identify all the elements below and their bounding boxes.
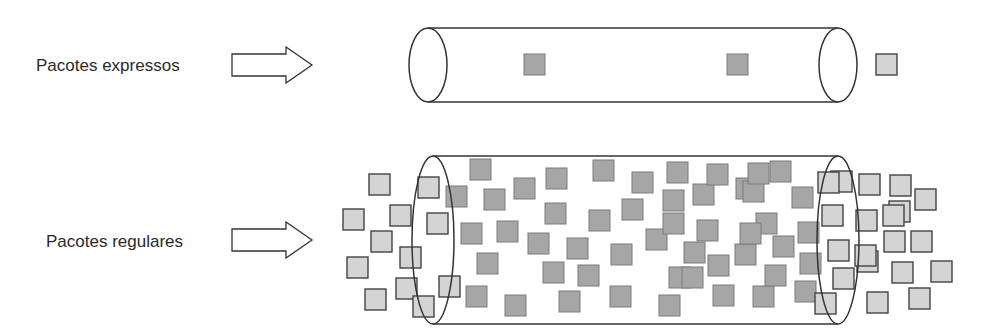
packet-outside [418,177,439,198]
packet-in-transit [470,159,491,180]
packet-in-transit [528,233,549,254]
packet-outside [909,288,930,309]
packet-in-transit [798,222,819,243]
packet-flow-diagram [0,0,986,334]
packet-outside [911,231,932,252]
regular-pipe [343,156,952,324]
packet-in-transit [740,223,761,244]
packet-in-transit [567,238,588,259]
packet-in-transit [559,291,580,312]
packet-outside [365,289,386,310]
packet-outside [815,293,836,314]
packet-in-transit [610,286,631,307]
packet-in-transit [773,236,794,257]
packet-outside [343,209,364,230]
packet-in-transit [708,255,729,276]
express-arrow-icon [232,47,312,83]
packet-in-transit [466,286,487,307]
packet-in-transit [514,178,535,199]
packet-in-transit [477,253,498,274]
packet-in-transit [543,262,564,283]
packet-outside [915,189,936,210]
packet-outside [400,247,421,268]
packet-in-transit [707,164,728,185]
packet-in-transit [667,162,688,183]
packet-outside [822,205,843,226]
regular-arrow-icon [232,222,312,258]
packet-outside [892,262,913,283]
packet-in-transit [593,160,614,181]
packet-in-transit [524,54,545,75]
packet-in-transit [622,199,643,220]
packet-in-transit [682,267,703,288]
packet-outside [883,205,904,226]
packet-outside [427,213,448,234]
packet-outside [833,268,854,289]
packet-outside [931,261,952,282]
packet-in-transit [792,187,813,208]
packet-in-transit [663,213,684,234]
packet-outside [876,54,897,75]
packet-in-transit [545,203,566,224]
express-pipe [409,28,897,102]
packet-in-transit [697,220,718,241]
packet-in-transit [497,221,518,242]
packet-outside [390,205,411,226]
packet-in-transit [684,242,705,263]
packet-in-transit [632,172,653,193]
packet-outside [890,175,911,196]
packet-in-transit [589,210,610,231]
packet-in-transit [770,161,791,182]
packet-in-transit [659,295,680,316]
packet-in-transit [748,163,769,184]
packet-in-transit [735,244,756,265]
packet-in-transit [578,265,599,286]
packet-outside [859,174,880,195]
packet-in-transit [795,281,816,302]
packet-in-transit [713,285,734,306]
packet-outside [884,231,905,252]
packet-outside [867,292,888,313]
packet-in-transit [663,190,684,211]
packet-outside [369,174,390,195]
packet-in-transit [461,223,482,244]
packet-in-transit [727,54,748,75]
packet-in-transit [546,168,567,189]
packet-outside [347,257,368,278]
packet-outside [828,240,849,261]
packet-outside [371,231,392,252]
packet-in-transit [611,244,632,265]
packet-in-transit [765,265,786,286]
packet-in-transit [484,189,505,210]
arrow-icons [232,47,312,258]
packet-in-transit [505,295,526,316]
packet-in-transit [753,286,774,307]
packet-in-transit [693,184,714,205]
